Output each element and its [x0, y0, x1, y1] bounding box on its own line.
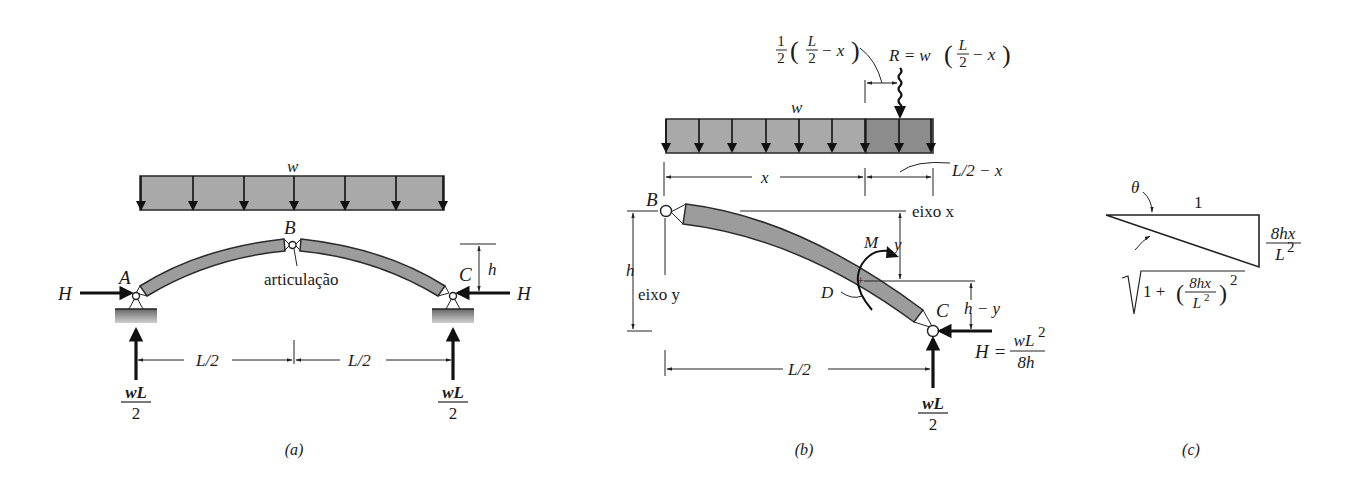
hinge-label: articulação: [264, 270, 339, 289]
caption-b: (b): [795, 441, 814, 459]
arch-half-member: [683, 204, 923, 322]
distributed-load: [136, 176, 448, 211]
section-leader: [841, 292, 862, 297]
caption-c: (c): [1182, 441, 1200, 459]
resultant-arrow: [899, 68, 902, 112]
span-label-right: L/2: [347, 351, 371, 370]
resultant-tail: − x: [972, 45, 996, 64]
x-axis-label: eixo x: [912, 202, 955, 221]
superscript: 2: [1038, 324, 1046, 340]
span-label-left: L/2: [195, 351, 219, 370]
load-label-w: w: [791, 98, 803, 117]
fraction-numerator: L: [807, 33, 816, 49]
thrust-label-left: H: [57, 283, 73, 304]
fraction-denominator: 2: [449, 404, 458, 423]
dimension-label-x: x: [760, 168, 769, 187]
reaction-fraction: wL 2: [918, 394, 948, 434]
section-label: D: [820, 283, 834, 302]
support-label-c: C: [459, 264, 472, 285]
crown-label-b: B: [646, 189, 658, 210]
fraction-numerator: 8hx: [1189, 275, 1211, 291]
fraction-numerator: wL: [442, 383, 464, 402]
paren-close: ): [1219, 280, 1227, 306]
reaction-right-fraction: wL 2: [438, 383, 468, 423]
superscript: 2: [1287, 239, 1295, 255]
paren-open: (: [790, 36, 799, 65]
adjacent-label: 1: [1194, 193, 1203, 212]
crown-label-b: B: [284, 217, 296, 238]
moment-label: M: [863, 233, 879, 252]
fraction-numerator: wL: [1014, 331, 1035, 350]
hyp-prefix: 1 +: [1143, 282, 1165, 301]
dimension-label-remaining: L/2 − x: [951, 161, 1003, 180]
fraction-denominator: 2: [959, 54, 967, 70]
fraction-numerator: L: [958, 37, 967, 53]
crown-hinge: [284, 239, 301, 251]
load-label-w: w: [287, 157, 299, 176]
distributed-load: [661, 119, 936, 153]
opposite-label: 8hx L 2: [1266, 224, 1301, 264]
fraction-numerator: wL: [125, 383, 147, 402]
y-axis-label: eixo y: [638, 285, 681, 304]
rise-label-h: h: [488, 260, 497, 279]
panel-c: θ 1 8hx L 2 1 + ( 8hx L 2 ) 2 (c): [1106, 178, 1301, 459]
resultant-label: R = w ( L 2 − x ): [888, 37, 1011, 70]
fraction-numerator: 1: [777, 33, 785, 49]
rise-label-h: h: [626, 261, 635, 280]
span-label: L/2: [787, 360, 811, 379]
fraction-denominator: L: [1274, 245, 1284, 264]
hinge-leader: [294, 249, 297, 266]
lever-tail: − x: [821, 41, 845, 60]
panel-b: 1 2 ( L 2 − x ) R = w ( L 2 − x ): [626, 33, 1046, 459]
three-hinged-arch-figure: w B articulação A H: [0, 0, 1356, 489]
fraction-denominator: L: [1192, 295, 1201, 311]
support-label-a: A: [117, 267, 131, 288]
ordinate-label-y: y: [892, 235, 902, 254]
thrust-prefix: H =: [974, 341, 1006, 362]
caption-a: (a): [285, 441, 304, 459]
paren-close: ): [851, 36, 860, 65]
angle-arrow-top: [1143, 192, 1152, 212]
lever-arm-label: 1 2 ( L 2 − x ): [776, 33, 860, 66]
fraction-denominator: 2: [808, 50, 816, 66]
hypotenuse-label: 1 + ( 8hx L 2 ) 2: [1122, 271, 1245, 314]
paren-close: ): [1002, 40, 1011, 69]
fraction-denominator: 2: [777, 50, 785, 66]
h-minus-y-label: h − y: [964, 299, 1000, 318]
paren-open: (: [944, 40, 953, 69]
slope-triangle: [1106, 215, 1259, 267]
fraction-denominator: 2: [132, 404, 141, 423]
angle-label: θ: [1131, 178, 1139, 197]
remaining-leader: [900, 162, 950, 172]
panel-a: w B articulação A H: [57, 157, 532, 459]
superscript: 2: [1204, 291, 1210, 303]
lever-leader: [860, 48, 882, 83]
crown-pin: [661, 206, 672, 217]
fraction-denominator: 2: [929, 415, 938, 434]
fraction-numerator: wL: [922, 394, 944, 413]
paren-open: (: [1176, 280, 1184, 306]
angle-arrow-bottom: [1135, 236, 1150, 250]
support-pin-c: [928, 326, 939, 337]
support-label-c: C: [936, 300, 949, 321]
exponent: 2: [1230, 272, 1238, 288]
thrust-label-right: H: [516, 283, 532, 304]
resultant-prefix: R = w: [888, 46, 931, 65]
fraction-denominator: 8h: [1018, 353, 1035, 372]
reaction-left-fraction: wL 2: [121, 383, 151, 423]
